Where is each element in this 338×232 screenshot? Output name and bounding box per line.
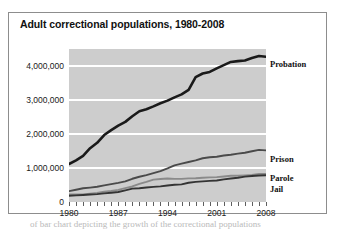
x-tick-mark: [146, 202, 147, 206]
x-tick-label: 2008: [257, 208, 276, 218]
series-line-probation: [69, 56, 266, 164]
x-tick-mark: [125, 202, 126, 206]
x-tick-label: 1980: [60, 208, 79, 218]
x-tick-label: 2001: [207, 208, 226, 218]
x-tick-mark: [175, 202, 176, 206]
x-tick-mark: [132, 202, 133, 206]
x-tick-mark: [118, 202, 119, 206]
series-label-probation: Probation: [270, 59, 306, 69]
x-tick-mark: [76, 202, 77, 206]
x-tick-mark: [90, 202, 91, 206]
x-tick-mark: [231, 202, 232, 206]
y-tick-label: 4,000,000: [26, 61, 64, 71]
x-tick-mark: [97, 202, 98, 206]
x-tick-mark: [238, 202, 239, 206]
series-label-parole: Parole: [270, 173, 293, 183]
x-tick-mark: [189, 202, 190, 206]
x-tick-mark: [160, 202, 161, 206]
caption-text: of bar chart depicting the growth of the…: [30, 219, 261, 229]
x-tick-mark: [83, 202, 84, 206]
x-tick-mark: [153, 202, 154, 206]
y-tick-label: 3,000,000: [26, 95, 64, 105]
x-tick-mark: [168, 202, 169, 206]
series-lines: [69, 49, 266, 202]
x-tick-mark: [182, 202, 183, 206]
x-tick-mark: [111, 202, 112, 206]
x-tick-mark: [196, 202, 197, 206]
x-tick-mark: [210, 202, 211, 206]
y-tick-label: 2,000,000: [26, 129, 64, 139]
series-label-jail: Jail: [270, 184, 283, 194]
x-axis-ticks: [69, 202, 266, 207]
caption-strip: of bar chart depicting the growth of the…: [0, 218, 338, 232]
series-label-prison: Prison: [270, 154, 294, 164]
x-tick-mark: [266, 202, 267, 206]
y-axis: 01,000,0002,000,0003,000,0004,000,000: [9, 49, 67, 202]
x-tick-mark: [104, 202, 105, 206]
x-tick-mark: [139, 202, 140, 206]
x-tick-mark: [252, 202, 253, 206]
x-tick-mark: [245, 202, 246, 206]
y-tick-label: 1,000,000: [26, 163, 64, 173]
chart-title: Adult correctional populations, 1980-200…: [20, 18, 224, 30]
x-tick-mark: [217, 202, 218, 206]
x-tick-mark: [259, 202, 260, 206]
x-tick-mark: [203, 202, 204, 206]
plot-area: [69, 49, 266, 202]
x-tick-label: 1987: [109, 208, 128, 218]
x-tick-mark: [224, 202, 225, 206]
x-tick-label: 1994: [158, 208, 177, 218]
y-tick-label: 0: [59, 197, 64, 207]
x-tick-mark: [69, 202, 70, 206]
chart-frame: Adult correctional populations, 1980-200…: [8, 12, 327, 214]
